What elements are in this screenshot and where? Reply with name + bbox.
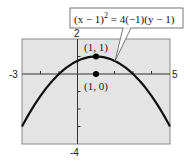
vertex-label: (1, 1) [84, 41, 108, 54]
x-max-label: 5 [172, 69, 178, 80]
y-min-label: -4 [70, 147, 79, 158]
focus-label: (1, 0) [84, 80, 108, 93]
focus-point [93, 71, 99, 77]
equation-label: (x − 1)2 = 4(−1)(y − 1) [74, 11, 175, 26]
vertex-point [93, 54, 99, 60]
y-max-label: 2 [74, 28, 80, 39]
parabola-chart: (1, 1) (1, 0) -3 5 2 -4 (x − 1)2 = 4(−1)… [0, 0, 195, 164]
x-min-label: -3 [9, 69, 18, 80]
